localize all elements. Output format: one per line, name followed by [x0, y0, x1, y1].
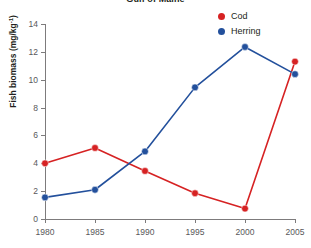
data-point-herring: [242, 44, 249, 51]
x-tick-label: 2000: [236, 227, 255, 237]
x-tick-mark: [145, 219, 146, 223]
series-line-herring: [45, 47, 295, 197]
data-point-cod: [192, 190, 199, 197]
legend-item-cod[interactable]: Cod: [218, 9, 261, 24]
legend-swatch-icon: [218, 13, 225, 20]
x-tick-label: 2005: [286, 227, 305, 237]
x-axis-line: [45, 219, 295, 220]
x-tick-label: 1980: [36, 227, 55, 237]
y-axis-title-exponent: -1: [8, 18, 14, 23]
series-line-cod: [45, 62, 295, 209]
data-point-cod: [142, 168, 149, 175]
data-point-herring: [292, 71, 299, 78]
data-point-cod: [292, 58, 299, 65]
data-point-herring: [92, 186, 99, 193]
y-axis-title-main: Fish biomass (mg/kg: [8, 23, 18, 108]
data-point-herring: [42, 194, 49, 201]
x-tick-mark: [195, 219, 196, 223]
legend-item-herring[interactable]: Herring: [218, 24, 261, 39]
y-tick-label: 0: [33, 214, 38, 224]
x-tick-mark: [45, 219, 46, 223]
x-tick-label: 1990: [136, 227, 155, 237]
y-tick-label: 6: [33, 130, 38, 140]
x-tick-label: 1985: [86, 227, 105, 237]
chart-container: Gulf of Maine Fish biomass (mg/kg-1) 024…: [0, 0, 311, 248]
y-axis-title-tail: ): [8, 15, 18, 18]
x-tick-mark: [295, 219, 296, 223]
data-point-cod: [242, 205, 249, 212]
y-axis-title: Fish biomass (mg/kg-1): [8, 1, 19, 121]
data-point-cod: [92, 145, 99, 152]
y-tick-label: 12: [29, 47, 38, 57]
chart-title: Gulf of Maine: [0, 0, 311, 4]
y-tick-label: 10: [29, 75, 38, 85]
y-tick-label: 4: [33, 158, 38, 168]
series-layer: [45, 24, 295, 219]
chart-legend: CodHerring: [218, 9, 261, 39]
legend-swatch-icon: [218, 28, 225, 35]
y-tick-label: 2: [33, 186, 38, 196]
data-point-herring: [142, 148, 149, 155]
x-tick-mark: [245, 219, 246, 223]
data-point-cod: [42, 160, 49, 167]
y-tick-label: 8: [33, 103, 38, 113]
data-point-herring: [192, 84, 199, 91]
y-tick-label: 14: [29, 19, 38, 29]
legend-label: Cod: [231, 12, 248, 21]
x-tick-mark: [95, 219, 96, 223]
x-tick-label: 1995: [186, 227, 205, 237]
legend-label: Herring: [231, 27, 261, 36]
plot-area: 02468101214 198019851990199520002005: [45, 24, 295, 219]
